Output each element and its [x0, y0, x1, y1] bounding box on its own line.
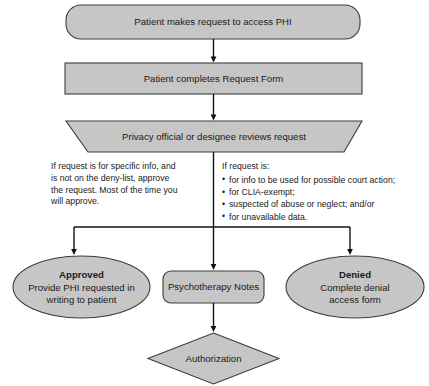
right-note-heading: If request is: — [222, 161, 422, 173]
node-shape-approved — [13, 256, 150, 318]
left-note-line1: If request is for specific info, and — [51, 161, 211, 173]
list-item: for unavailable data. — [222, 212, 422, 224]
annotation-right-note: If request is: for info to be used for p… — [222, 161, 422, 224]
node-shape-request — [66, 5, 360, 39]
flowchart-diagram: Patient makes request to access PHI Pati… — [0, 0, 429, 386]
left-note-line2: is not on the deny-list, approve — [51, 173, 211, 185]
right-note-bullet-list: for info to be used for possible court a… — [222, 175, 422, 224]
list-item: suspected of abuse or neglect; and/or — [222, 199, 422, 211]
list-item: for info to be used for possible court a… — [222, 175, 422, 187]
node-shape-psychotherapy — [163, 271, 264, 303]
list-item: for CLIA-exempt; — [222, 187, 422, 199]
left-note-line3: the request. Most of the time you — [51, 185, 211, 197]
node-shape-review — [66, 121, 362, 152]
node-shape-denied — [286, 256, 424, 318]
node-shape-form — [65, 63, 362, 94]
annotation-left-note: If request is for specific info, and is … — [51, 161, 211, 208]
node-shape-authorization — [148, 333, 279, 384]
left-note-line4: will approve. — [51, 196, 211, 208]
